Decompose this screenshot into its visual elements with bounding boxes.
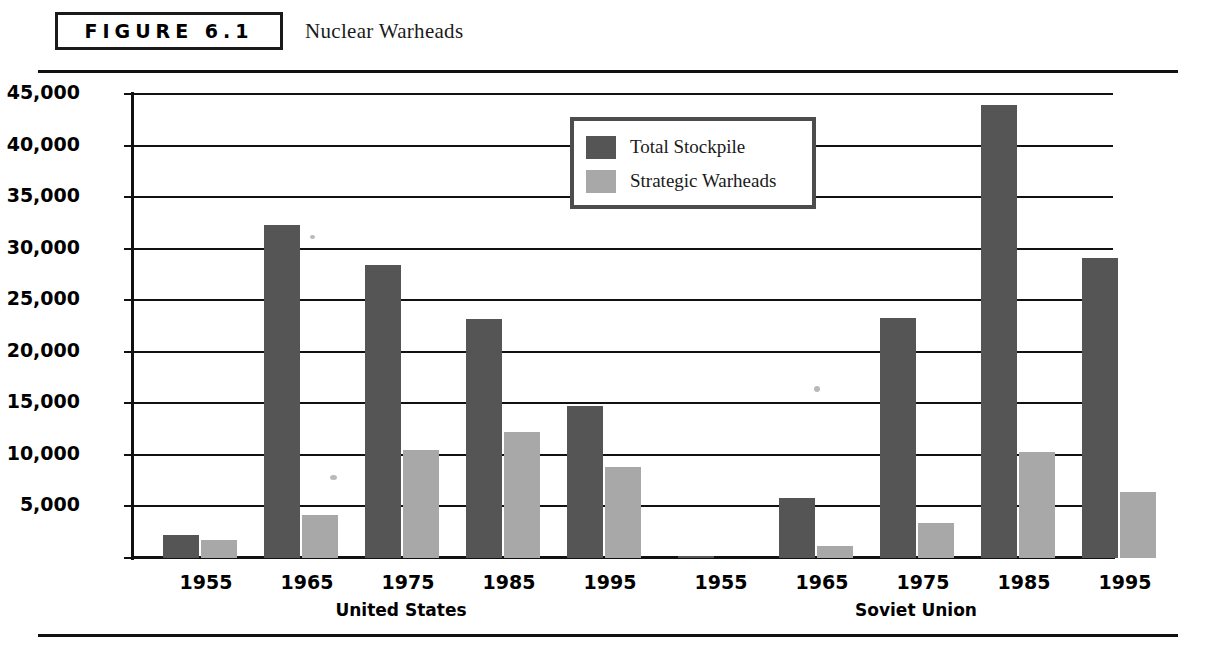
bar-strategic-warheads	[302, 515, 338, 558]
scan-speck-icon	[310, 235, 315, 239]
y-axis-tick	[124, 557, 134, 559]
x-axis-tick-label: 1985	[479, 571, 539, 593]
y-axis-tick	[124, 454, 134, 456]
y-axis-tick-label: 20,000	[0, 339, 80, 361]
scan-speck-icon	[814, 386, 820, 392]
y-axis-tick-label: 25,000	[0, 287, 80, 309]
bar-total-stockpile	[1082, 258, 1118, 558]
bar-total-stockpile	[365, 265, 401, 558]
bar-strategic-warheads	[918, 523, 954, 558]
legend-label-strategic-warheads: Strategic Warheads	[630, 170, 776, 192]
x-axis-tick-label: 1975	[893, 571, 953, 593]
bar-strategic-warheads	[1019, 452, 1055, 558]
gridline	[133, 93, 1113, 95]
bar-strategic-warheads	[504, 432, 540, 558]
y-axis-tick-label: 40,000	[0, 133, 80, 155]
y-axis-tick	[124, 196, 134, 198]
legend-item-total-stockpile: Total Stockpile	[586, 130, 802, 164]
chart-legend: Total Stockpile Strategic Warheads	[570, 117, 816, 209]
y-axis-tick	[124, 145, 134, 147]
legend-swatch-strategic-warheads	[586, 170, 616, 193]
y-axis-tick-label: 10,000	[0, 442, 80, 464]
bar-total-stockpile	[163, 535, 199, 558]
bar-strategic-warheads	[605, 467, 641, 558]
bar-strategic-warheads	[817, 546, 853, 558]
y-axis-tick	[124, 402, 134, 404]
bar-total-stockpile	[981, 105, 1017, 558]
x-axis-tick-label: 1955	[176, 571, 236, 593]
bar-strategic-warheads	[403, 450, 439, 558]
y-axis-tick-label: 15,000	[0, 390, 80, 412]
y-axis-tick	[124, 299, 134, 301]
x-axis-tick-label: 1955	[691, 571, 751, 593]
x-axis-tick-label: 1965	[792, 571, 852, 593]
legend-label-total-stockpile: Total Stockpile	[630, 136, 745, 158]
bar-total-stockpile	[264, 225, 300, 558]
x-axis-tick-label: 1965	[277, 571, 337, 593]
x-axis-tick-label: 1995	[1095, 571, 1155, 593]
x-axis-group-label: United States	[301, 600, 501, 620]
y-axis-tick-label: 45,000	[0, 81, 80, 103]
y-axis-tick-label: 5,000	[0, 493, 80, 515]
x-axis-tick-label: 1975	[378, 571, 438, 593]
y-axis-tick	[124, 351, 134, 353]
y-axis-tick	[124, 93, 134, 95]
bar-strategic-warheads	[1120, 492, 1156, 558]
legend-swatch-total-stockpile	[586, 136, 616, 159]
bar-chart: 19551965197519851995United States1955196…	[0, 0, 1209, 670]
y-axis-tick	[124, 505, 134, 507]
y-axis-tick-label: 30,000	[0, 236, 80, 258]
scan-speck-icon	[330, 475, 337, 480]
bar-total-stockpile	[779, 498, 815, 558]
y-axis-tick-label: 35,000	[0, 184, 80, 206]
bar-total-stockpile	[880, 318, 916, 558]
x-axis-group-label: Soviet Union	[816, 600, 1016, 620]
x-axis-tick-label: 1995	[580, 571, 640, 593]
bar-strategic-warheads	[201, 540, 237, 558]
y-axis-tick	[124, 248, 134, 250]
bar-total-stockpile	[678, 556, 714, 558]
legend-item-strategic-warheads: Strategic Warheads	[586, 164, 802, 198]
bar-total-stockpile	[466, 319, 502, 558]
bar-total-stockpile	[567, 406, 603, 558]
x-axis-tick-label: 1985	[994, 571, 1054, 593]
